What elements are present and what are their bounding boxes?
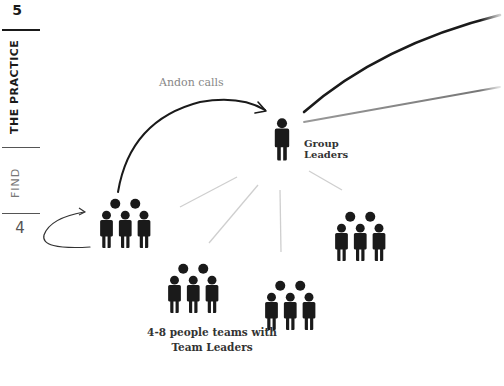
team-icon <box>335 212 385 261</box>
teams-label-line2: Team Leaders <box>132 340 292 355</box>
person-icon <box>275 118 289 160</box>
teams-label-line1: 4-8 people teams with <box>132 325 292 340</box>
escalation-line <box>304 87 500 122</box>
group-leaders-line1: Group <box>304 138 348 149</box>
team-icon <box>100 199 150 248</box>
escalation-curve <box>304 15 500 112</box>
andon-calls-label: Andon calls <box>159 76 224 89</box>
self-loop-arrow <box>44 212 90 248</box>
arrowhead-icon <box>79 208 85 215</box>
group-leaders-line2: Leaders <box>304 149 348 160</box>
group-leaders-label: Group Leaders <box>304 138 348 160</box>
andon-arrow <box>118 100 265 192</box>
teams-label: 4-8 people teams with Team Leaders <box>132 325 292 355</box>
connector-lines <box>180 171 342 252</box>
team-icon <box>168 264 218 313</box>
team-icon <box>265 281 315 330</box>
